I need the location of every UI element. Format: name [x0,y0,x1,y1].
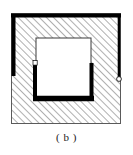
left-node-marker [33,61,37,66]
figure-caption: ( b ) [0,130,133,144]
right-node-marker [117,77,122,82]
figure-container: ( b ) [0,0,133,155]
figure-drawing [0,0,133,133]
inner-white-square [36,38,91,97]
